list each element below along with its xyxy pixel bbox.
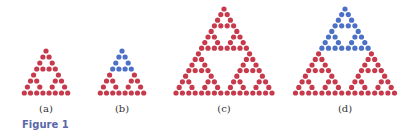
- dot: [333, 23, 338, 28]
- dot: [250, 90, 255, 95]
- dot: [241, 85, 246, 90]
- dot: [221, 6, 226, 11]
- dot: [199, 46, 204, 51]
- dot: [375, 85, 380, 90]
- panel-label-d: (d): [338, 103, 352, 114]
- dot: [186, 90, 191, 95]
- dot: [389, 85, 394, 90]
- dot: [359, 34, 364, 39]
- dot: [237, 90, 242, 95]
- dot: [319, 68, 324, 73]
- dot: [62, 84, 67, 89]
- dot: [333, 34, 338, 39]
- dot: [199, 68, 204, 73]
- dot: [234, 29, 239, 34]
- panel-label-c: (c): [217, 103, 230, 114]
- dot: [346, 46, 351, 51]
- dot: [329, 74, 334, 79]
- dot: [116, 66, 121, 71]
- dot: [193, 90, 198, 95]
- dot: [193, 57, 198, 62]
- dot: [237, 79, 242, 84]
- dot: [366, 46, 371, 51]
- dot: [202, 40, 207, 45]
- dot: [244, 68, 249, 73]
- dot: [234, 74, 239, 79]
- dot: [372, 90, 377, 95]
- dot: [205, 68, 210, 73]
- dot: [372, 57, 377, 62]
- dot: [37, 60, 42, 65]
- dot: [336, 85, 341, 90]
- dot: [129, 90, 134, 95]
- dot: [336, 40, 341, 45]
- dot: [218, 23, 223, 28]
- dot: [59, 78, 64, 83]
- dot: [119, 48, 124, 53]
- dot: [28, 78, 33, 83]
- dot: [34, 78, 39, 83]
- dot: [189, 62, 194, 67]
- dot: [250, 57, 255, 62]
- dot: [47, 90, 52, 95]
- dot: [231, 79, 236, 84]
- dot: [225, 12, 230, 17]
- dot: [228, 40, 233, 45]
- dot: [241, 62, 246, 67]
- dot: [250, 68, 255, 73]
- dot: [352, 79, 357, 84]
- dot: [180, 79, 185, 84]
- dot: [326, 68, 331, 73]
- dot: [336, 18, 341, 23]
- dot: [300, 90, 305, 95]
- dot: [123, 66, 128, 71]
- dot: [329, 29, 334, 34]
- dot: [47, 66, 52, 71]
- dot: [215, 18, 220, 23]
- dot: [129, 78, 134, 83]
- dot: [352, 46, 357, 51]
- dot: [263, 79, 268, 84]
- dot: [53, 90, 58, 95]
- dot: [209, 74, 214, 79]
- dot: [333, 79, 338, 84]
- dot: [98, 90, 103, 95]
- dot: [138, 84, 143, 89]
- dot: [359, 68, 364, 73]
- dot: [369, 51, 374, 56]
- dot: [362, 40, 367, 45]
- dot: [141, 90, 146, 95]
- dot: [199, 57, 204, 62]
- dot: [366, 90, 371, 95]
- dot: [101, 84, 106, 89]
- dot: [199, 90, 204, 95]
- dot: [313, 90, 318, 95]
- dot: [25, 84, 30, 89]
- dot: [218, 46, 223, 51]
- dot: [333, 90, 338, 95]
- dot: [346, 90, 351, 95]
- dot: [47, 54, 52, 59]
- dot: [346, 23, 351, 28]
- dot: [65, 90, 70, 95]
- dot: [309, 85, 314, 90]
- triangle-panel-a: [22, 48, 71, 95]
- dot: [385, 90, 390, 95]
- dot: [293, 90, 298, 95]
- dot: [362, 62, 367, 67]
- dot: [359, 90, 364, 95]
- dot: [28, 90, 33, 95]
- dot: [362, 85, 367, 90]
- dot: [269, 90, 274, 95]
- dot: [225, 46, 230, 51]
- dot: [339, 12, 344, 17]
- dot: [34, 66, 39, 71]
- dot: [205, 79, 210, 84]
- dot: [186, 68, 191, 73]
- dot: [205, 46, 210, 51]
- dot: [126, 60, 131, 65]
- dot: [392, 90, 397, 95]
- dot: [237, 68, 242, 73]
- dot: [50, 60, 55, 65]
- dot: [205, 90, 210, 95]
